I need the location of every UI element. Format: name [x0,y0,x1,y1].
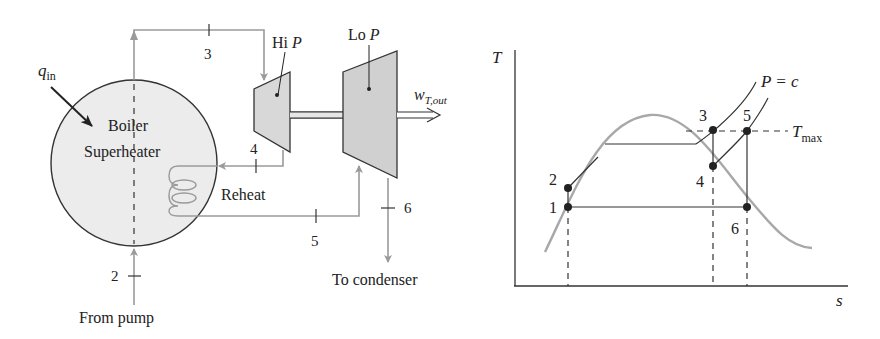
process-2-heating [568,157,598,188]
from-pump-label: From pump [79,309,154,327]
point-5-label: 5 [743,107,751,124]
state-4-label: 4 [250,141,258,157]
point-4-label: 4 [696,173,704,190]
work-output-label: wT,out [414,86,448,106]
heat-input-label: qin [38,61,56,83]
cycle-schematic: 2 From pump 3 qin Boiler Superheater Hi … [38,24,448,327]
point-3-label: 3 [699,107,707,124]
hi-p-label: Hi P [272,34,302,51]
state-3-label: 3 [204,46,212,62]
point-2-label: 2 [549,171,557,188]
superheater-label: Superheater [84,143,161,161]
turbine-shaft [290,112,343,118]
flow-to-hi-p [134,30,264,80]
state-2-label: 2 [111,268,119,284]
boiler-label: Boiler [108,117,149,134]
state-point-2 [564,184,572,192]
state-5-label: 5 [311,233,319,249]
output-shaft [397,112,433,118]
tmax-label: Tmax [792,122,822,145]
to-condenser-label: To condenser [332,271,418,288]
reheat-label: Reheat [221,186,266,203]
lo-p-label: Lo P [348,26,380,43]
state-point-3 [709,126,717,134]
s-axis-label: s [836,291,843,310]
state-point-6 [743,203,751,211]
isobar-reheat [713,98,768,166]
saturation-dome [545,115,812,252]
point-1-label: 1 [549,199,557,216]
reheat-rankine-figure: 2 From pump 3 qin Boiler Superheater Hi … [0,0,880,339]
state-point-4 [709,162,717,170]
arrow-up-icon [130,30,138,40]
lo-p-turbine [343,51,397,178]
t-axis-label: T [492,48,503,67]
state-point-1 [564,203,572,211]
state-6-label: 6 [404,200,412,216]
state-point-5 [743,127,751,135]
point-6-label: 6 [731,220,739,237]
hi-p-turbine [254,72,290,152]
pressure-label: P = c [760,72,799,91]
ts-diagram: T s Tmax P = c [492,48,848,310]
